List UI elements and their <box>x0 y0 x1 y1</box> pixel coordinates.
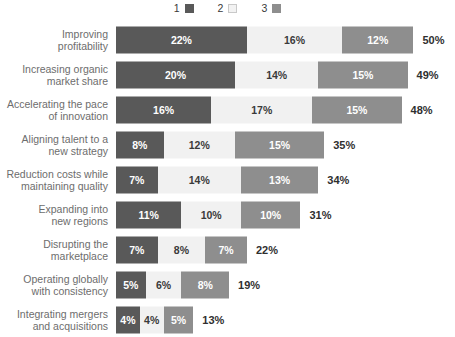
bar-segment-series-3[interactable]: 13% <box>241 166 318 193</box>
legend-item-label: 1 <box>174 3 180 14</box>
bar-segment-value-label: 15% <box>269 139 290 151</box>
bar-segment-value-label: 16% <box>284 34 305 46</box>
chart-plot-area: Improving profitability22%16%12%50%Incre… <box>0 22 455 337</box>
bar-segment-value-label: 13% <box>269 174 290 186</box>
bar-segment-value-label: 7% <box>129 244 144 256</box>
bar-segment-series-2[interactable]: 14% <box>235 61 318 88</box>
legend-item-3[interactable]: 3 <box>261 3 281 14</box>
bar-segment-value-label: 22% <box>171 34 192 46</box>
bar-segment-value-label: 7% <box>129 174 144 186</box>
chart-row: Disrupting the marketplace7%8%7%22% <box>0 232 455 267</box>
category-label: Expanding into new regions <box>0 202 108 227</box>
category-label: Reduction costs while maintaining qualit… <box>0 167 108 192</box>
row-total-label: 34% <box>327 174 349 186</box>
chart-row: Expanding into new regions11%10%10%31% <box>0 197 455 232</box>
row-total-label: 31% <box>309 209 331 221</box>
row-total-label: 50% <box>423 34 445 46</box>
bar-segment-value-label: 15% <box>346 104 367 116</box>
stacked-bar: 7%8%7% <box>116 236 247 263</box>
bar-segment-series-2[interactable]: 4% <box>140 306 164 333</box>
row-total-label: 35% <box>333 139 355 151</box>
bar-segment-series-2[interactable]: 8% <box>158 236 206 263</box>
bar-segment-series-2[interactable]: 17% <box>211 96 312 123</box>
stacked-bar: 22%16%12% <box>116 26 413 53</box>
bar-segment-series-3[interactable]: 7% <box>205 236 247 263</box>
category-label: Improving profitability <box>0 27 108 52</box>
bar-segment-value-label: 5% <box>171 314 186 326</box>
chart-row: Operating globally with consistency5%6%8… <box>0 267 455 302</box>
bar-segment-series-1[interactable]: 8% <box>116 131 164 158</box>
bar-segment-value-label: 14% <box>266 69 287 81</box>
stacked-bar: 5%6%8% <box>116 271 229 298</box>
bar-segment-series-3[interactable]: 10% <box>241 201 301 228</box>
bar-segment-value-label: 8% <box>132 139 147 151</box>
legend-item-label: 3 <box>261 3 267 14</box>
bar-segment-value-label: 8% <box>198 279 213 291</box>
bar-segment-series-1[interactable]: 4% <box>116 306 140 333</box>
bar-segment-series-1[interactable]: 7% <box>116 236 158 263</box>
chart-row: Integrating mergers and acquisitions4%4%… <box>0 302 455 337</box>
bar-segment-series-1[interactable]: 20% <box>116 61 235 88</box>
bar-segment-series-1[interactable]: 22% <box>116 26 247 53</box>
legend-item-2[interactable]: 2 <box>218 3 238 14</box>
square-filled-dark-icon <box>185 4 194 13</box>
bar-segment-series-1[interactable]: 11% <box>116 201 181 228</box>
category-label: Increasing organic market share <box>0 62 108 87</box>
chart-row: Reduction costs while maintaining qualit… <box>0 162 455 197</box>
bar-segment-value-label: 6% <box>156 279 171 291</box>
bar-segment-series-1[interactable]: 7% <box>116 166 158 193</box>
stacked-bar: 8%12%15% <box>116 131 324 158</box>
bar-segment-value-label: 11% <box>139 209 159 221</box>
bar-segment-value-label: 12% <box>189 139 210 151</box>
bar-segment-value-label: 20% <box>165 69 186 81</box>
bar-segment-value-label: 14% <box>189 174 210 186</box>
bar-segment-series-1[interactable]: 16% <box>116 96 211 123</box>
stacked-bar: 11%10%10% <box>116 201 300 228</box>
bar-segment-value-label: 4% <box>120 314 135 326</box>
bar-segment-value-label: 16% <box>153 104 174 116</box>
bar-segment-series-3[interactable]: 15% <box>312 96 401 123</box>
bar-segment-series-2[interactable]: 12% <box>164 131 235 158</box>
legend-item-label: 2 <box>218 3 224 14</box>
bar-segment-series-3[interactable]: 5% <box>164 306 194 333</box>
bar-segment-series-3[interactable]: 12% <box>342 26 413 53</box>
bar-segment-series-2[interactable]: 6% <box>146 271 182 298</box>
bar-segment-value-label: 10% <box>260 209 281 221</box>
bar-segment-value-label: 10% <box>201 209 222 221</box>
legend-item-1[interactable]: 1 <box>174 3 194 14</box>
bar-segment-series-3[interactable]: 15% <box>318 61 407 88</box>
bar-segment-value-label: 5% <box>123 279 138 291</box>
category-label: Accelerating the pace of innovation <box>0 97 108 122</box>
row-total-label: 22% <box>256 244 278 256</box>
row-total-label: 48% <box>411 104 433 116</box>
square-filled-medium-icon <box>272 4 281 13</box>
stacked-bar: 20%14%15% <box>116 61 408 88</box>
bar-segment-value-label: 17% <box>251 104 272 116</box>
chart-row: Aligning talent to a new strategy8%12%15… <box>0 127 455 162</box>
stacked-bar: 16%17%15% <box>116 96 402 123</box>
chart-row: Improving profitability22%16%12%50% <box>0 22 455 57</box>
square-outline-light-icon <box>228 4 237 13</box>
category-label: Disrupting the marketplace <box>0 237 108 262</box>
bar-segment-series-2[interactable]: 16% <box>247 26 342 53</box>
stacked-bar: 7%14%13% <box>116 166 318 193</box>
chart-row: Accelerating the pace of innovation16%17… <box>0 92 455 127</box>
bar-segment-series-3[interactable]: 15% <box>235 131 324 158</box>
row-total-label: 13% <box>202 314 224 326</box>
bar-segment-value-label: 15% <box>352 69 373 81</box>
category-label: Operating globally with consistency <box>0 272 108 297</box>
bar-segment-series-2[interactable]: 14% <box>158 166 241 193</box>
bar-segment-series-2[interactable]: 10% <box>181 201 241 228</box>
bar-segment-value-label: 12% <box>367 34 388 46</box>
bar-segment-value-label: 8% <box>174 244 189 256</box>
row-total-label: 49% <box>417 69 439 81</box>
category-label: Integrating mergers and acquisitions <box>0 307 108 332</box>
bar-segment-series-1[interactable]: 5% <box>116 271 146 298</box>
category-label: Aligning talent to a new strategy <box>0 132 108 157</box>
bar-segment-value-label: 7% <box>218 244 233 256</box>
row-total-label: 19% <box>238 279 260 291</box>
stacked-bar: 4%4%5% <box>116 306 193 333</box>
bar-segment-value-label: 4% <box>144 314 159 326</box>
bar-segment-series-3[interactable]: 8% <box>181 271 229 298</box>
